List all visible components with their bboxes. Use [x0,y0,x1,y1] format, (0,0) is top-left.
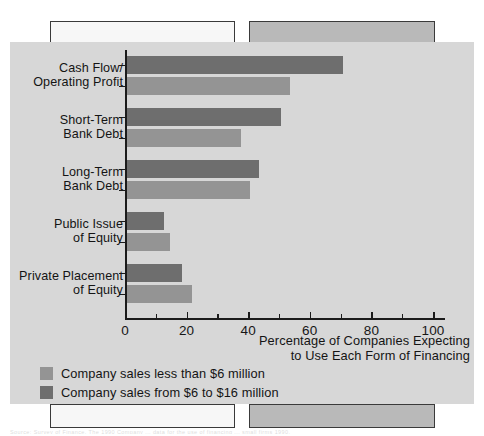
x-axis-title-line1: Percentage of Companies Expecting [150,334,470,349]
category-label-line1: Cash Flow/ [0,62,123,76]
x-tick-mark-minor [279,314,280,319]
category-label-line2: Operating Profit [0,76,123,90]
x-tick-label: 0 [121,323,129,338]
category-label: Private Placementof Equity [0,270,123,297]
bar [127,212,164,230]
category-label: Cash Flow/Operating Profit [0,62,123,89]
figure-panel: 020406080100 Cash Flow/Operating ProfitS… [10,42,474,404]
x-tick-mark [371,312,373,319]
bar [127,108,281,126]
x-tick-mark-minor [217,314,218,319]
plot-area: 020406080100 Cash Flow/Operating ProfitS… [125,50,455,326]
legend-swatch-icon [40,386,53,399]
bar [127,264,182,282]
category-label-line1: Public Issue [0,218,123,232]
page-artifact-bottom-left [50,404,235,428]
category-label: Long-TermBank Debt [0,166,123,193]
x-tick-mark-minor [341,314,342,319]
category-label-line1: Short-Term [0,114,123,128]
category-label-line2: Bank Debt [0,128,123,142]
legend-item: Company sales less than $6 million [40,364,279,383]
bar [127,181,250,199]
x-tick-mark-minor [402,314,403,319]
x-axis-line [125,318,445,320]
bar [127,233,170,251]
bar [127,160,259,178]
legend-item-label: Company sales less than $6 million [61,366,265,381]
bar [127,77,290,95]
x-axis-title: Percentage of Companies Expecting to Use… [150,334,470,363]
category-label-line1: Private Placement [0,270,123,284]
legend: Company sales less than $6 million Compa… [40,364,279,402]
legend-item-label: Company sales from $6 to $16 million [61,385,279,400]
x-tick-mark-minor [156,314,157,319]
x-tick-mark [187,312,189,319]
x-tick-mark [125,312,127,319]
page-bottom-caption: Source: Survey of Finance. The 1990 Comp… [10,429,474,434]
bar [127,129,241,147]
bar [127,56,343,74]
page-artifact-bottom-right [249,404,435,428]
x-tick-mark [248,312,250,319]
category-label-line2: of Equity [0,232,123,246]
x-tick-mark [433,312,435,319]
category-label-line2: of Equity [0,284,123,298]
category-label: Short-TermBank Debt [0,114,123,141]
legend-swatch-icon [40,367,53,380]
category-label-line2: Bank Debt [0,180,123,194]
x-axis-title-line2: to Use Each Form of Financing [150,349,470,364]
bar [127,285,192,303]
legend-item: Company sales from $6 to $16 million [40,383,279,402]
x-tick-mark [310,312,312,319]
category-label: Public Issueof Equity [0,218,123,245]
category-label-line1: Long-Term [0,166,123,180]
